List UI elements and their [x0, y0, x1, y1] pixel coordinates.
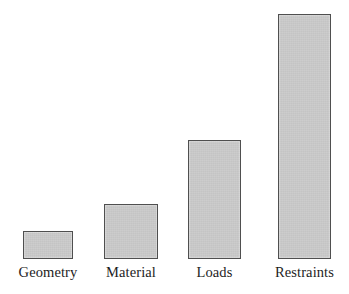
- bar-restraints: [278, 14, 331, 259]
- bar-material: [104, 204, 158, 259]
- x-tick-label-restraints: Restraints: [245, 262, 349, 282]
- plot-area: [0, 0, 349, 262]
- bar-geometry: [23, 231, 73, 259]
- x-axis-tick-labels: Geometry Material Loads Restraints: [0, 262, 349, 294]
- bar-loads: [188, 140, 241, 259]
- bar-chart-figure: Geometry Material Loads Restraints: [0, 0, 349, 294]
